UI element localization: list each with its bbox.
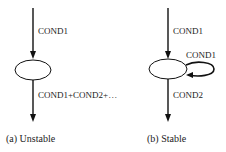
arrowhead-icon: [30, 51, 36, 59]
arrowhead-icon: [186, 72, 193, 78]
state-node-b: [149, 59, 187, 79]
state-node-a: [15, 60, 51, 80]
incoming-condition-label-b: COND1: [173, 27, 203, 36]
caption-b: (b) Stable: [147, 134, 186, 144]
outgoing-condition-label-b: COND2: [173, 91, 203, 100]
arrowhead-icon: [30, 114, 36, 122]
loop-condition-label-b: COND1: [186, 51, 216, 60]
state-diagram-figure: COND1 COND1+COND2+… (a) Unstable COND1 C…: [0, 0, 226, 152]
incoming-condition-label-a: COND1: [38, 27, 68, 36]
outgoing-condition-label-a: COND1+COND2+…: [38, 91, 117, 100]
arrowhead-icon: [165, 51, 171, 59]
diagram-graphics: [0, 0, 226, 152]
caption-a: (a) Unstable: [6, 134, 55, 144]
arrowhead-icon: [165, 114, 171, 122]
